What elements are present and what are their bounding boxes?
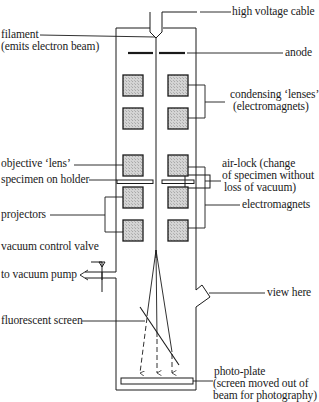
label-projectors: projectors [1, 208, 46, 221]
label-electromagnets: electromagnets [242, 198, 310, 211]
label-anode: anode [285, 46, 312, 59]
label-specimen-on-holder: specimen on holder [1, 173, 89, 186]
label-condensing-lenses: condensing ‘lenses’ [230, 88, 319, 101]
air-lock [185, 175, 210, 188]
projector-magnet-left-1 [123, 187, 143, 208]
condenser-magnet-left-1 [123, 75, 143, 96]
projector-magnet-right-1 [168, 187, 188, 208]
label-photo-plate-desc-2: beam for photography) [213, 389, 317, 402]
label-photo-plate: photo-plate [214, 365, 265, 378]
label-filament-desc: (emits electron beam) [1, 40, 99, 53]
objective-magnet-right [168, 155, 188, 176]
label-fluorescent-screen: fluorescent screen [1, 314, 83, 327]
label-view-here: view here [267, 286, 311, 299]
label-air-lock: air-lock (change [222, 157, 295, 170]
objective-magnet-left [123, 155, 143, 176]
vacuum-valve [85, 262, 116, 292]
label-vacuum-control-valve: vacuum control valve [1, 240, 99, 253]
projector-magnet-left-2 [123, 220, 143, 241]
condenser-magnet-right-1 [168, 75, 188, 96]
photo-plate [121, 378, 193, 384]
label-photo-plate-desc-1: (screen moved out of [213, 377, 308, 390]
label-high-voltage-cable: high voltage cable [232, 5, 315, 18]
filament-housing [150, 12, 197, 38]
condenser-magnet-right-2 [168, 108, 188, 129]
label-air-lock-desc-2: loss of vacuum) [224, 181, 296, 194]
condenser-magnet-left-2 [123, 108, 143, 129]
fluorescent-screen [140, 307, 179, 365]
projected-rays [140, 318, 172, 373]
label-air-lock-desc-1: of specimen without [222, 169, 314, 182]
projector-magnet-right-2 [168, 220, 188, 241]
label-filament: filament [1, 28, 39, 41]
label-to-vacuum-pump: to vacuum pump [1, 268, 77, 281]
label-condensing-desc: (electromagnets) [233, 100, 309, 113]
label-objective-lens: objective ‘lens’ [1, 157, 71, 170]
